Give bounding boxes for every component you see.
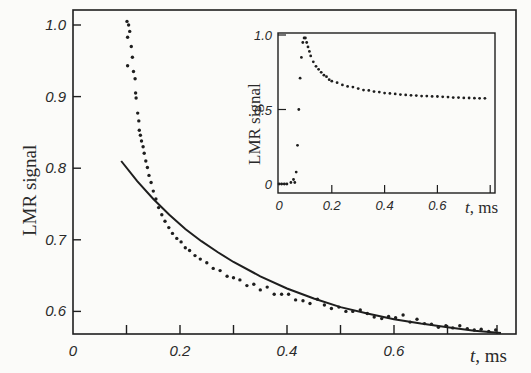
- data-point: [305, 41, 308, 44]
- data-point: [160, 213, 163, 216]
- data-point: [144, 159, 147, 162]
- data-point: [316, 298, 319, 301]
- data-point: [126, 64, 129, 67]
- data-point: [452, 96, 455, 99]
- data-point: [245, 284, 248, 287]
- data-point: [344, 310, 347, 313]
- data-point: [184, 246, 187, 249]
- data-point: [431, 95, 434, 98]
- data-point: [238, 278, 241, 281]
- main-y-axis-label: LMR signal: [19, 145, 40, 236]
- data-point: [373, 315, 376, 318]
- inset-plot: 00.51.0 00.20.40.6 LMR signal t, ms: [245, 28, 498, 217]
- data-point: [366, 312, 369, 315]
- data-point: [457, 96, 460, 99]
- data-point: [336, 81, 339, 84]
- data-point: [484, 97, 487, 100]
- data-point: [266, 285, 269, 288]
- data-point: [167, 226, 170, 229]
- data-point: [301, 41, 304, 44]
- data-point: [297, 108, 300, 111]
- x-tick-label: 0.4: [376, 198, 394, 213]
- data-point: [179, 240, 182, 243]
- data-point: [447, 96, 450, 99]
- y-tick-label: 0.7: [45, 231, 67, 248]
- data-point: [330, 307, 333, 310]
- data-point: [143, 152, 146, 155]
- data-point: [362, 89, 365, 92]
- x-tick-label: 0: [69, 342, 78, 359]
- data-point: [346, 85, 349, 88]
- inset-y-axis-label: LMR signal: [245, 83, 264, 165]
- data-point: [152, 189, 155, 192]
- data-point: [171, 232, 174, 235]
- data-point: [157, 206, 160, 209]
- data-point: [300, 56, 303, 59]
- data-point: [420, 95, 423, 98]
- data-point: [341, 84, 344, 87]
- data-point: [466, 327, 469, 330]
- lmr-signal-figure: 0.60.70.80.91.0 00.20.40.6 LMR signal t,…: [0, 0, 531, 373]
- data-point: [130, 45, 133, 48]
- data-point: [232, 276, 235, 279]
- data-point: [408, 320, 411, 323]
- data-point: [487, 330, 490, 333]
- data-point: [387, 315, 390, 318]
- data-point: [225, 275, 228, 278]
- inset-x-axis-label: t, ms: [465, 198, 498, 217]
- data-point: [175, 237, 178, 240]
- data-point: [199, 257, 202, 260]
- data-point: [147, 174, 150, 177]
- data-point: [378, 91, 381, 94]
- data-point: [478, 97, 481, 100]
- data-point: [330, 80, 333, 83]
- data-point: [383, 92, 386, 95]
- x-tick-label: 0: [275, 198, 283, 213]
- data-point: [399, 93, 402, 96]
- data-point: [133, 77, 136, 80]
- data-point: [283, 183, 286, 186]
- data-point: [328, 78, 331, 81]
- data-point: [458, 324, 461, 327]
- data-point: [163, 220, 166, 223]
- data-point: [473, 97, 476, 100]
- data-point: [280, 183, 283, 186]
- data-point: [278, 183, 281, 186]
- y-tick-label: 0.9: [45, 88, 67, 105]
- data-point: [462, 97, 465, 100]
- data-point: [301, 299, 304, 302]
- data-point: [141, 145, 144, 148]
- data-point: [307, 46, 310, 49]
- data-point: [337, 305, 340, 308]
- data-point: [136, 111, 139, 114]
- data-point: [293, 181, 296, 184]
- data-point: [436, 95, 439, 98]
- data-point: [415, 94, 418, 97]
- data-point: [125, 20, 128, 23]
- data-point: [259, 288, 262, 291]
- data-point: [137, 119, 140, 122]
- data-point: [295, 171, 298, 174]
- data-point: [473, 328, 476, 331]
- data-point: [308, 302, 311, 305]
- data-point: [296, 144, 299, 147]
- data-point: [423, 322, 426, 325]
- x-tick-label: 0.2: [323, 198, 342, 213]
- y-tick-label: 0: [265, 177, 273, 192]
- data-point: [154, 197, 157, 200]
- main-x-axis-label: t, ms: [470, 345, 507, 366]
- data-point: [430, 323, 433, 326]
- data-point: [394, 93, 397, 96]
- data-point: [323, 303, 326, 306]
- data-point: [290, 181, 293, 184]
- data-point: [304, 37, 307, 40]
- data-point: [138, 129, 141, 132]
- data-point: [286, 183, 289, 186]
- data-point: [389, 92, 392, 95]
- data-point: [315, 65, 318, 68]
- data-point: [415, 318, 418, 321]
- x-tick-label: 0.2: [170, 342, 192, 359]
- data-point: [131, 56, 134, 59]
- data-point: [212, 267, 215, 270]
- data-point: [325, 75, 328, 78]
